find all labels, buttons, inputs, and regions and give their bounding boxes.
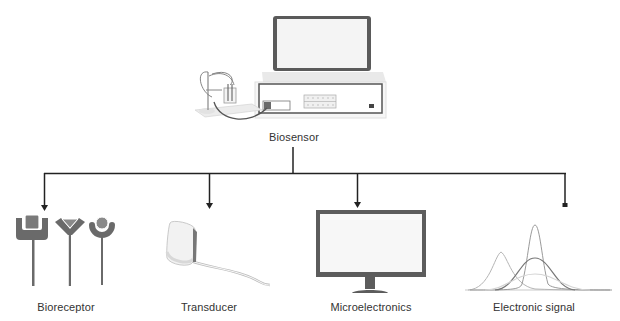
electronic-signal-label: Electronic signal	[493, 301, 575, 313]
gaussian-peaks-signal-icon	[0, 0, 620, 321]
